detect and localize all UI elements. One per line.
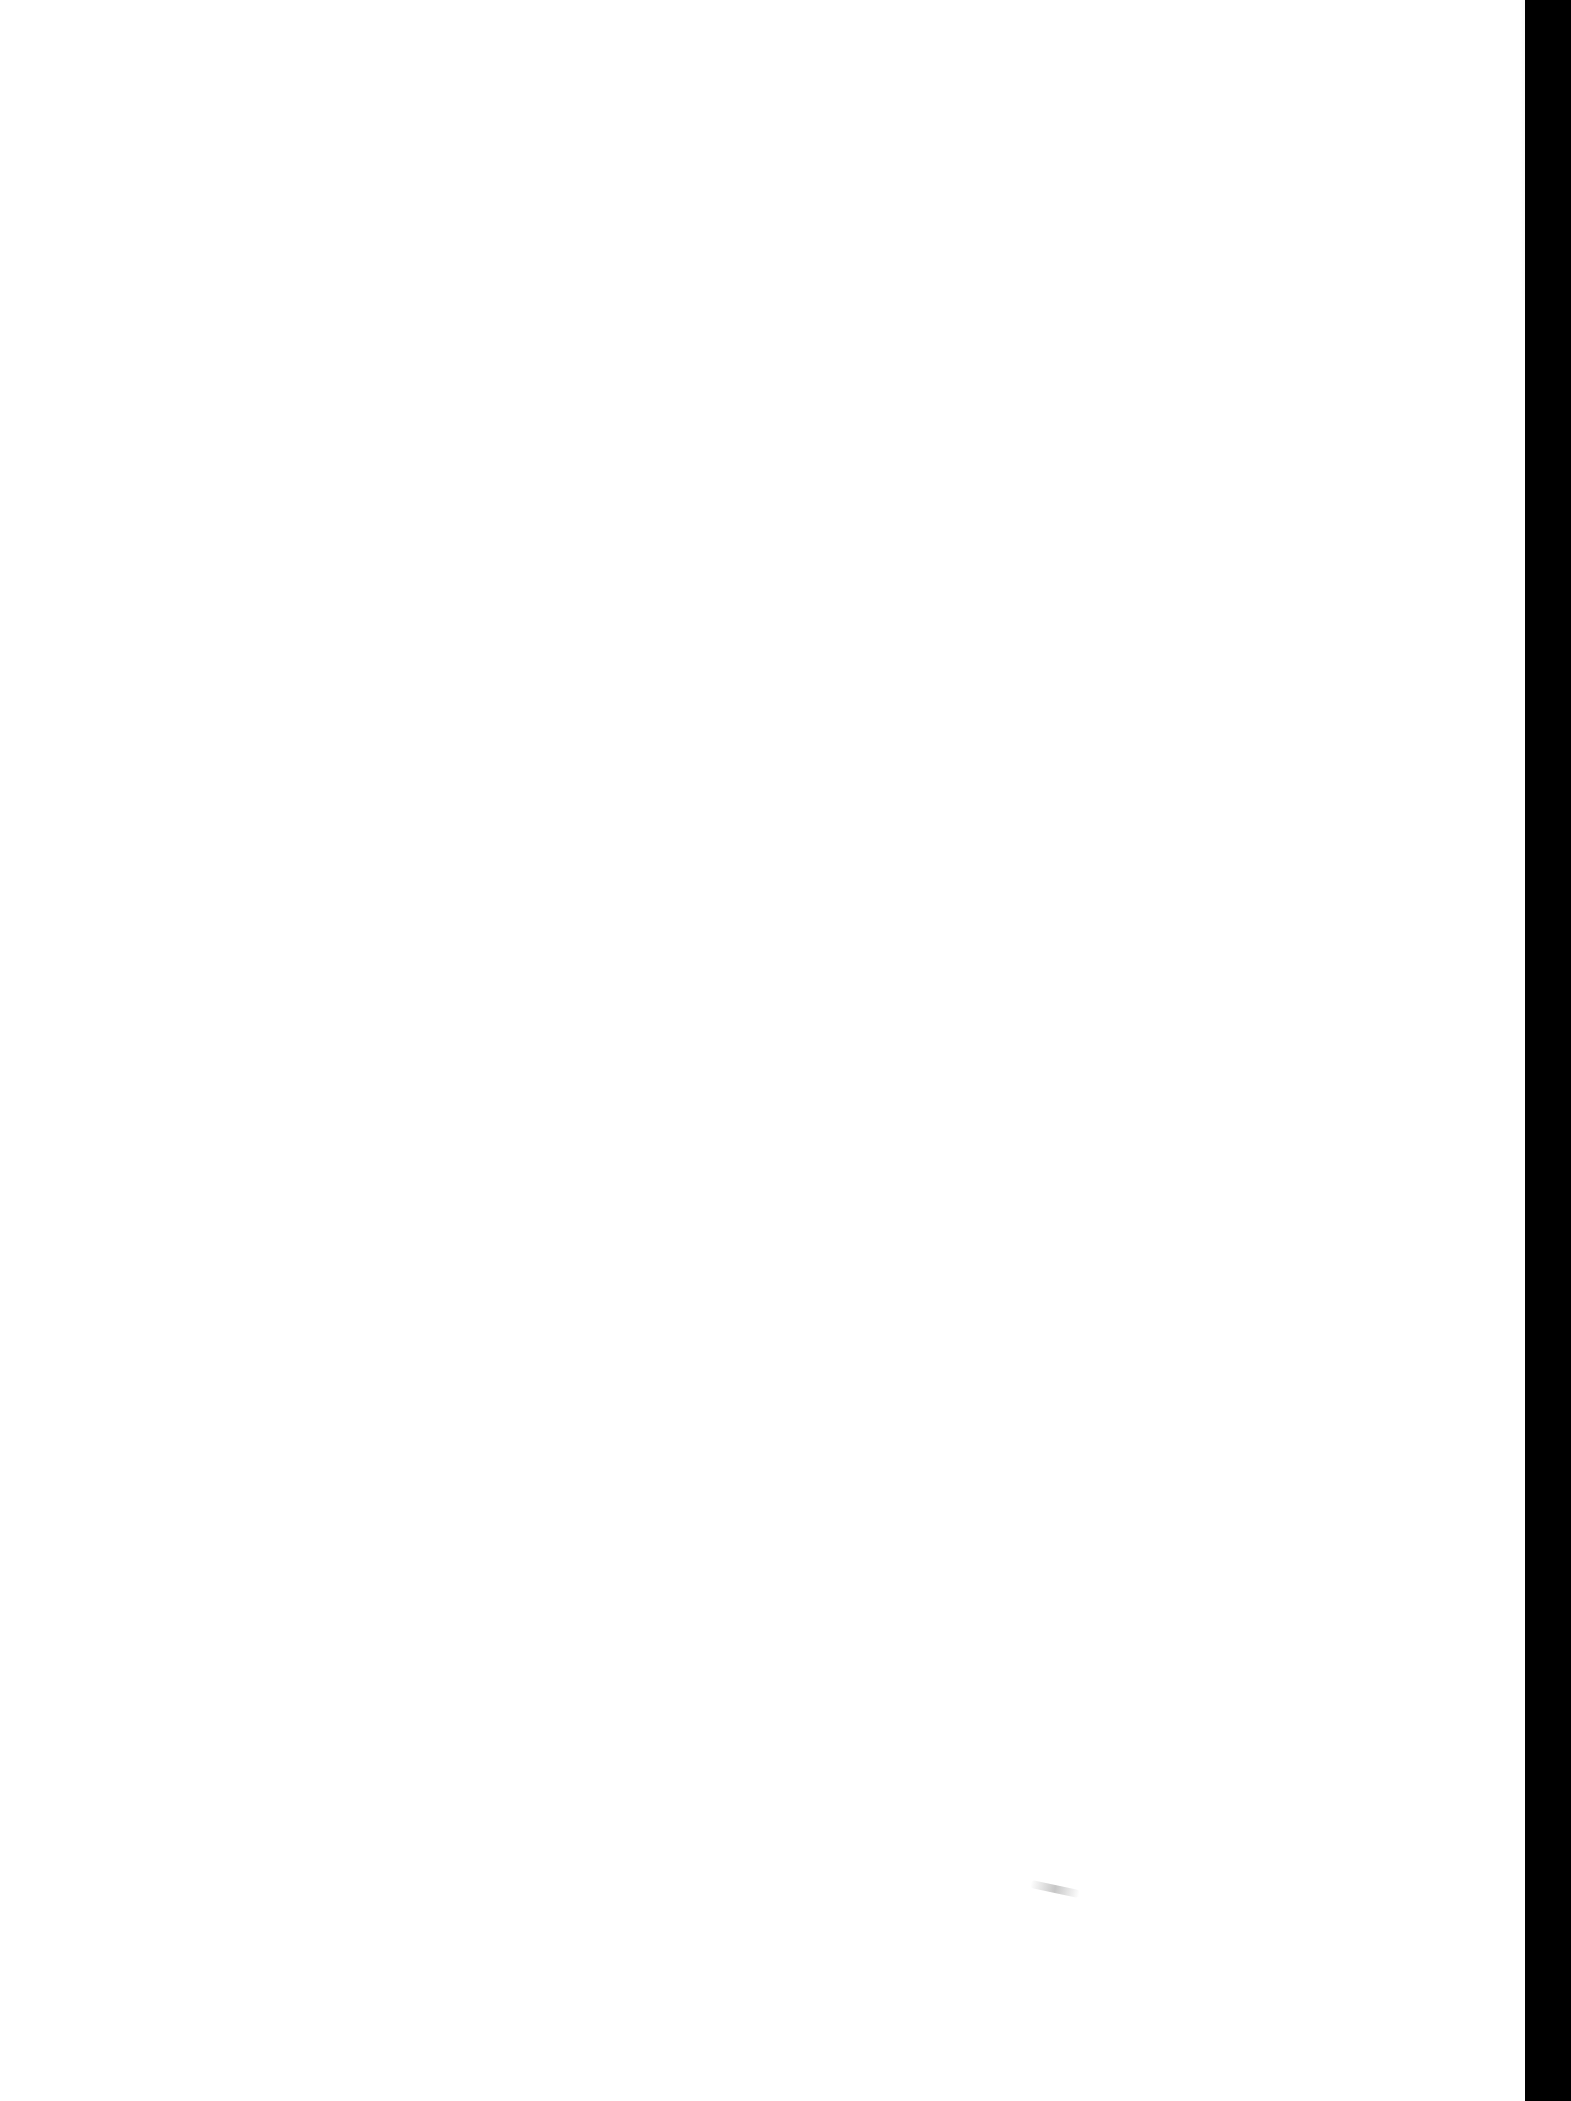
scan-smudge <box>1030 1880 1081 1898</box>
scan-border-edge <box>1525 0 1571 2101</box>
blank-page <box>0 0 1525 2101</box>
